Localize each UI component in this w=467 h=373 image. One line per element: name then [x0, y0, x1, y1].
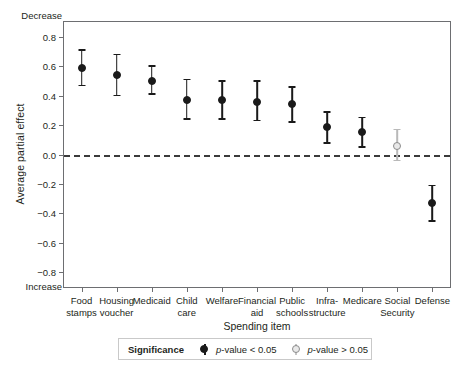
y-tick-mark	[59, 155, 63, 156]
figure: Average partial effect Decrease Increase…	[0, 0, 467, 373]
axis-note-decrease: Decrease	[2, 10, 62, 21]
point-marker	[393, 142, 401, 150]
x-axis-title: Spending item	[63, 320, 451, 332]
error-bar-cap-lower	[113, 95, 120, 97]
point-marker	[323, 123, 331, 131]
error-bar-cap-lower	[78, 85, 85, 87]
legend: Significance p-value < 0.05 p-value > 0.…	[118, 338, 372, 360]
error-bar-cap-lower	[429, 220, 436, 222]
point-marker	[113, 71, 121, 79]
y-tick-mark	[59, 37, 63, 38]
error-bar-cap-lower	[183, 118, 190, 120]
x-tick-mark	[362, 288, 363, 292]
error-bar-cap-upper	[218, 80, 225, 82]
error-bar-cap-upper	[113, 54, 120, 56]
error-bar-cap-lower	[324, 142, 331, 144]
error-bar-cap-lower	[218, 118, 225, 120]
legend-entry-not-significant: p-value > 0.05	[289, 343, 368, 356]
filled-circle-icon	[198, 343, 211, 356]
y-tick-mark	[59, 213, 63, 214]
point-marker	[428, 199, 436, 207]
zero-reference-line	[64, 155, 450, 157]
error-bar-cap-upper	[148, 65, 155, 67]
y-tick-mark	[59, 96, 63, 97]
error-bar-cap-upper	[289, 86, 296, 88]
error-bar-cap-lower	[359, 146, 366, 148]
error-bar-cap-upper	[324, 111, 331, 113]
error-bar-cap-upper	[78, 49, 85, 51]
point-marker	[183, 96, 191, 104]
point-marker	[78, 64, 86, 72]
open-circle-icon	[289, 343, 302, 356]
error-bar-cap-upper	[429, 185, 436, 187]
error-bar-cap-upper	[359, 117, 366, 119]
legend-label-significant: p-value < 0.05	[216, 344, 277, 355]
y-tick-label: −0.2	[12, 178, 56, 189]
error-bar-cap-lower	[148, 93, 155, 95]
point-marker	[148, 77, 156, 85]
y-tick-label: 0.8	[12, 31, 56, 42]
x-tick-mark	[327, 288, 328, 292]
y-tick-mark	[59, 125, 63, 126]
error-bar-cap-lower	[254, 120, 261, 122]
error-bar-cap-upper	[254, 80, 261, 82]
x-tick-mark	[257, 288, 258, 292]
point-marker	[288, 100, 296, 108]
axis-note-increase: Increase	[2, 281, 62, 292]
y-tick-mark	[59, 66, 63, 67]
y-tick-mark	[59, 272, 63, 273]
y-tick-label: 0.6	[12, 61, 56, 72]
legend-entry-significant: p-value < 0.05	[198, 343, 277, 356]
y-tick-label: 0.0	[12, 149, 56, 160]
x-tick-mark	[152, 288, 153, 292]
y-tick-label: −0.8	[12, 267, 56, 278]
point-marker	[253, 98, 261, 106]
error-bar-cap-lower	[394, 160, 401, 162]
x-tick-mark	[432, 288, 433, 292]
error-bar-cap-upper	[183, 79, 190, 81]
y-tick-label: 0.2	[12, 120, 56, 131]
x-tick-mark	[397, 288, 398, 292]
error-bar-cap-lower	[289, 121, 296, 123]
x-category-label: Defense	[400, 295, 464, 307]
x-tick-mark	[82, 288, 83, 292]
error-bar-cap-upper	[394, 129, 401, 131]
x-tick-mark	[117, 288, 118, 292]
y-tick-label: −0.6	[12, 237, 56, 248]
y-tick-label: −0.4	[12, 208, 56, 219]
x-tick-mark	[222, 288, 223, 292]
legend-title: Significance	[128, 344, 184, 355]
y-tick-label: 0.4	[12, 90, 56, 101]
x-tick-mark	[187, 288, 188, 292]
legend-label-not-significant: p-value > 0.05	[307, 344, 368, 355]
point-marker	[358, 128, 366, 136]
point-marker	[218, 96, 226, 104]
y-tick-mark	[59, 243, 63, 244]
x-tick-mark	[292, 288, 293, 292]
y-tick-mark	[59, 184, 63, 185]
